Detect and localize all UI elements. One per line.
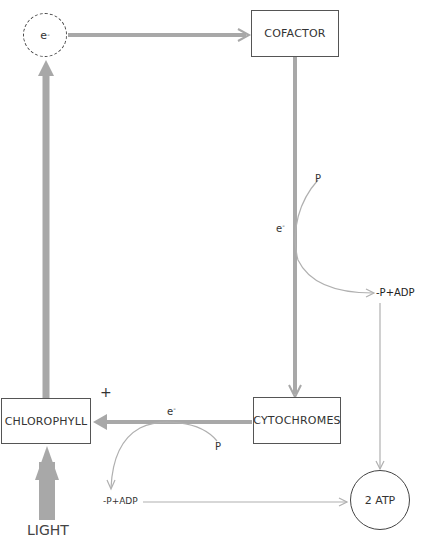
electron-node: e- [23,13,67,57]
chlorophyll-label: CHLOROPHYLL [5,415,88,428]
atp-node: 2 ATP [350,470,410,530]
arrow-light [35,446,59,520]
cofactor-label: COFACTOR [264,27,325,40]
plus-label: + [100,384,112,400]
arrow-phosphorylation-bottom [107,422,217,489]
cofactor-node: COFACTOR [251,10,339,57]
padp-label-right: -P+ADP [376,287,415,298]
cytochromes-node: CYTOCHROMES [253,397,341,444]
cytochromes-label: CYTOCHROMES [253,414,340,427]
arrow-padp-to-atp-horizontal [143,498,347,506]
arrow-chlorophyll-to-electron [38,60,54,398]
chlorophyll-node: CHLOROPHYLL [1,398,91,444]
diagram-canvas [0,0,421,542]
arrow-electron-to-cofactor [68,29,249,41]
arrow-phosphorylation-right [295,180,374,297]
arrow-cofactor-to-cytochromes [289,57,301,397]
light-label: LIGHT [27,522,69,538]
padp-label-bottom: -P+ADP [103,496,138,506]
atp-label: 2 ATP [365,494,396,507]
electron-label: e [40,29,47,42]
phosphate-label-bottom: P [215,441,221,452]
electron-label-bottom: e- [167,405,176,417]
phosphate-label-right: P [315,173,321,184]
electron-label-right: e- [276,222,285,234]
arrow-padp-to-atp-vertical [376,303,384,469]
